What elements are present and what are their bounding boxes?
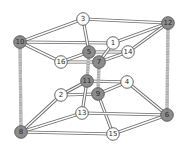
- edge-layer: [20, 19, 168, 134]
- edge-10-16: [20, 42, 61, 62]
- node-label: 2: [59, 91, 63, 99]
- edge-14-12: [128, 23, 168, 52]
- edge-10-3: [20, 19, 83, 42]
- node-label: 16: [57, 58, 66, 66]
- node-3: 3: [77, 13, 90, 26]
- node-label: 3: [81, 15, 85, 23]
- node-label: 12: [164, 19, 173, 27]
- node-label: 9: [96, 90, 100, 98]
- edge-10-8: [20, 42, 21, 132]
- edge-15-6: [113, 115, 167, 134]
- node-label: 7: [97, 58, 101, 66]
- node-15: 15: [107, 128, 120, 141]
- node-9: 9: [92, 88, 105, 101]
- node-label: 1: [111, 39, 115, 47]
- node-1: 1: [107, 37, 120, 50]
- node-4: 4: [121, 76, 134, 89]
- graph-canvas: 12345678910111213141516: [0, 0, 186, 152]
- edge-3-12: [83, 19, 168, 23]
- node-12: 12: [162, 17, 175, 30]
- node-label: 15: [109, 130, 118, 138]
- edge-10-1: [20, 42, 113, 43]
- node-label: 6: [165, 111, 170, 119]
- node-7: 7: [93, 56, 106, 69]
- edge-13-6: [82, 113, 167, 115]
- node-5: 5: [83, 46, 96, 59]
- node-label: 14: [124, 48, 133, 56]
- node-label: 10: [16, 38, 25, 46]
- node-14: 14: [122, 46, 135, 59]
- node-16: 16: [55, 56, 68, 69]
- graph-diagram: 12345678910111213141516: [0, 0, 186, 152]
- node-8: 8: [15, 126, 28, 139]
- node-label: 11: [83, 77, 92, 85]
- node-label: 8: [19, 128, 23, 136]
- node-label: 4: [125, 78, 130, 86]
- edge-1-12: [113, 23, 168, 43]
- node-2: 2: [55, 89, 68, 102]
- node-11: 11: [81, 75, 94, 88]
- node-13: 13: [76, 107, 89, 120]
- node-10: 10: [14, 36, 27, 49]
- node-label: 13: [78, 109, 87, 117]
- edge-8-15: [21, 132, 113, 134]
- node-label: 5: [87, 48, 91, 56]
- edge-12-6: [167, 23, 168, 115]
- node-6: 6: [161, 109, 174, 122]
- edge-4-6: [127, 82, 167, 115]
